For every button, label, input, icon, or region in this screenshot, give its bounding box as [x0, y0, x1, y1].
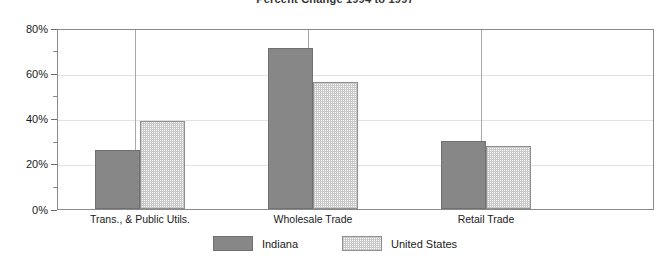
- category-label-retail-trade: Retail Trade: [458, 213, 515, 225]
- bar-united-states-trans-public-utils: [140, 121, 185, 209]
- bar-united-states-retail-trade: [486, 146, 531, 209]
- bar-indiana-retail-trade: [441, 141, 486, 209]
- bar-indiana-trans-public-utils: [95, 150, 140, 209]
- y-tick-label-40: 40%: [26, 113, 48, 125]
- chart-legend: Indiana United States: [0, 236, 670, 251]
- legend-label-united-states: United States: [391, 238, 457, 250]
- y-tick-label-20: 20%: [26, 158, 48, 170]
- legend-swatch-united-states: [342, 236, 382, 251]
- legend-swatch-indiana: [213, 236, 253, 251]
- y-tick-label-0: 0%: [32, 204, 48, 216]
- legend-entry-united-states: United States: [342, 236, 457, 251]
- category-label-wholesale-trade: Wholesale Trade: [274, 213, 353, 225]
- y-tick-mark-0: [51, 210, 57, 211]
- chart-title: Percent Change 1994 to 1997: [0, 0, 670, 5]
- y-tick-label-80: 80%: [26, 23, 48, 35]
- gridline-60: [58, 75, 653, 76]
- legend-entry-indiana: Indiana: [213, 236, 298, 251]
- bar-united-states-wholesale-trade: [313, 82, 358, 209]
- y-tick-label-60: 60%: [26, 68, 48, 80]
- bar-indiana-wholesale-trade: [268, 48, 313, 209]
- plot-area: [57, 29, 654, 210]
- y-axis: 80% 60% 40% 20% 0%: [0, 0, 57, 240]
- category-label-trans-public-utils: Trans., & Public Utils.: [90, 213, 190, 225]
- legend-label-indiana: Indiana: [262, 238, 298, 250]
